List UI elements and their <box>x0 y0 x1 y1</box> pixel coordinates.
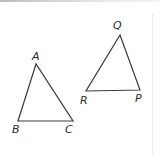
vertex-label-p: P <box>135 93 142 104</box>
triangle-abc <box>18 64 73 121</box>
triangles-diagram <box>0 0 160 155</box>
vertex-label-b: B <box>12 124 20 135</box>
vertex-label-r: R <box>80 95 88 106</box>
vertex-label-c: C <box>65 124 73 135</box>
triangle-pqr <box>86 35 140 91</box>
vertex-label-q: Q <box>113 20 122 31</box>
vertex-label-a: A <box>32 51 40 62</box>
